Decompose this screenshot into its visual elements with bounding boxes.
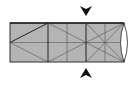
arrow-up-icon <box>80 68 92 78</box>
fold-diagram <box>0 0 136 85</box>
arrow-down-icon <box>80 6 92 16</box>
